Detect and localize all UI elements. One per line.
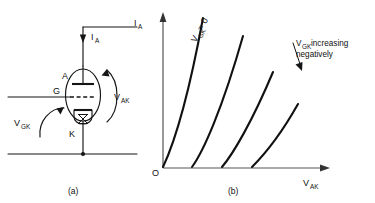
x-axis-arrowhead bbox=[320, 165, 330, 172]
anode-current-arrowhead bbox=[80, 35, 86, 44]
vgk-label-main: V bbox=[14, 118, 20, 128]
vgk-label: V GK bbox=[14, 118, 31, 130]
characteristic-curve-4 bbox=[252, 104, 298, 167]
junction-dot bbox=[81, 152, 85, 156]
y-axis-label-main: I bbox=[134, 18, 137, 28]
figure-canvas: A G K I A V AK V GK (a) I A V bbox=[0, 0, 375, 203]
vak-label-main: V bbox=[114, 92, 120, 102]
vgk-zero-curve-label: V GK = 0 bbox=[189, 16, 212, 45]
caption-b: (b) bbox=[228, 186, 239, 196]
panel-b-chart: I A V AK O V GK = 0 V GK increasing nega… bbox=[134, 12, 349, 196]
vak-label-sub: AK bbox=[121, 97, 130, 104]
panel-a-circuit: A G K I A V AK V GK (a) bbox=[8, 27, 137, 196]
anode-current-label-sub: A bbox=[95, 37, 100, 44]
vgk-annotation-arrowhead bbox=[296, 62, 303, 71]
anode-label: A bbox=[62, 71, 68, 81]
vgk-increasing-tail: increasing bbox=[311, 39, 349, 48]
y-axis-arrowhead bbox=[160, 12, 167, 22]
vgk-increasing-annotation: V GK increasing negatively bbox=[293, 39, 349, 71]
anode-current-label: I A bbox=[91, 32, 100, 44]
vgk-label-sub: GK bbox=[21, 123, 31, 130]
grid-label: G bbox=[53, 86, 60, 96]
x-axis-label: V AK bbox=[303, 178, 319, 190]
origin-label: O bbox=[152, 168, 159, 178]
figure-root: A G K I A V AK V GK (a) I A V bbox=[0, 0, 375, 203]
cathode-label: K bbox=[69, 129, 75, 139]
x-axis-label-sub: AK bbox=[310, 183, 319, 190]
y-axis-label-sub: A bbox=[138, 23, 143, 30]
y-axis-label: I A bbox=[134, 18, 143, 30]
vak-arrowhead bbox=[102, 69, 110, 77]
vgk-arrowhead bbox=[57, 107, 65, 115]
x-axis-label-main: V bbox=[303, 178, 309, 188]
caption-a: (a) bbox=[68, 186, 79, 196]
vgk-zero-label-tail: = 0 bbox=[195, 16, 210, 33]
anode-current-label-main: I bbox=[91, 32, 94, 42]
vgk-increasing-line2: negatively bbox=[296, 50, 334, 59]
